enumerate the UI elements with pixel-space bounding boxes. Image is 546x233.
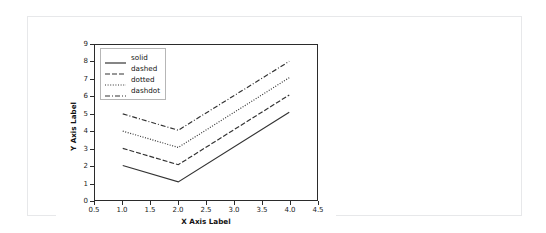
x-axis-label: X Axis Label <box>94 217 318 226</box>
screenshot-root: Y Axis Label X Axis Label 0123456789 0.5… <box>0 0 546 233</box>
x-tick-label: 2.0 <box>172 206 183 214</box>
legend-line-sample-icon <box>105 86 126 96</box>
y-tick-label: 1 <box>84 180 88 188</box>
chart-card-panel: Y Axis Label X Axis Label 0123456789 0.5… <box>27 16 522 216</box>
x-tick-label: 4.5 <box>312 206 323 214</box>
x-tick-label: 4.0 <box>284 206 295 214</box>
x-tick-label: 3.5 <box>256 206 267 214</box>
x-tick-mark <box>122 201 123 205</box>
legend-item-label: dotted <box>131 76 155 83</box>
x-tick-label: 1.0 <box>116 206 127 214</box>
x-tick-mark <box>290 201 291 205</box>
x-tick-mark <box>262 201 263 205</box>
x-tick-label: 3.0 <box>228 206 239 214</box>
y-tick-label: 5 <box>84 110 88 118</box>
y-tick-label: 7 <box>84 75 88 83</box>
x-tick-label: 1.5 <box>144 206 155 214</box>
x-tick-mark <box>94 201 95 205</box>
y-tick-label: 0 <box>84 197 88 205</box>
x-tick-mark <box>178 201 179 205</box>
y-tick-label: 6 <box>84 92 88 100</box>
legend-item-dotted[interactable]: dotted <box>105 74 160 85</box>
y-tick-label: 9 <box>84 40 88 48</box>
legend-line-sample-icon <box>105 75 126 85</box>
legend-item-label: dashed <box>131 65 157 72</box>
y-tick-label: 2 <box>84 162 88 170</box>
y-tick-label: 3 <box>84 145 88 153</box>
matplotlib-figure: Y Axis Label X Axis Label 0123456789 0.5… <box>56 34 336 232</box>
y-axis-label: Y Axis Label <box>69 82 78 172</box>
chart-legend: soliddasheddotteddashdot <box>100 48 166 100</box>
y-tick-label: 4 <box>84 127 88 135</box>
legend-line-sample-icon <box>105 53 126 63</box>
legend-item-label: solid <box>131 54 148 61</box>
x-tick-mark <box>150 201 151 205</box>
x-tick-mark <box>318 201 319 205</box>
legend-item-dashdot[interactable]: dashdot <box>105 85 160 96</box>
legend-item-dashed[interactable]: dashed <box>105 63 160 74</box>
legend-line-sample-icon <box>105 64 126 74</box>
legend-item-label: dashdot <box>131 87 160 94</box>
y-tick-label: 8 <box>84 57 88 65</box>
x-tick-mark <box>206 201 207 205</box>
x-tick-mark <box>234 201 235 205</box>
x-tick-label: 0.5 <box>88 206 99 214</box>
x-tick-label: 2.5 <box>200 206 211 214</box>
legend-item-solid[interactable]: solid <box>105 52 160 63</box>
